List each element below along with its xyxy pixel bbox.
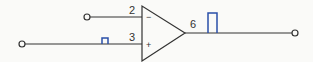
opamp-diagram: − + 2 3 6 (0, 0, 313, 62)
pin-3-label: 3 (129, 31, 135, 43)
output-wire (185, 30, 298, 36)
circuit-svg: − + 2 3 6 (0, 0, 313, 62)
inverting-terminal-icon (84, 14, 90, 20)
noninverting-terminal-icon (19, 41, 25, 47)
noninverting-sign: + (146, 40, 151, 50)
output-terminal-icon (292, 30, 298, 36)
noninverting-input-wire (19, 41, 142, 47)
pin-6-label: 6 (190, 18, 196, 30)
inverting-sign: − (146, 12, 151, 22)
input-pulse-icon (102, 38, 108, 44)
output-pulse-icon (208, 13, 217, 33)
pin-2-label: 2 (129, 4, 135, 16)
